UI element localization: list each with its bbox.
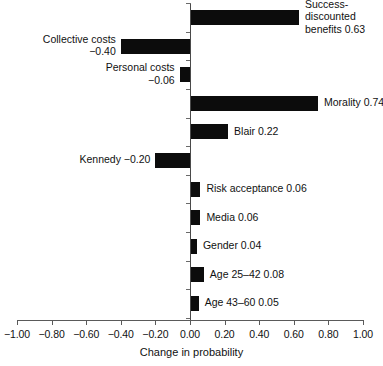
bar-risk-acceptance (190, 182, 200, 197)
x-tick-mark (363, 320, 364, 325)
bar-personal-costs (180, 67, 190, 82)
x-tick-mark (17, 320, 18, 325)
bar-blair (190, 124, 228, 139)
bar-label-age-25-42: Age 25–42 0.08 (210, 268, 284, 280)
x-tick-mark (121, 320, 122, 325)
x-tick-label: 0.00 (180, 328, 200, 340)
bar-media (190, 210, 200, 225)
bar-label-success-discounted-benefits: Success- discounted benefits 0.63 (305, 0, 365, 35)
x-tick-mark (190, 320, 191, 325)
x-tick-label: 0.80 (318, 328, 338, 340)
x-tick-mark (225, 320, 226, 325)
bar-success-discounted-benefits (190, 10, 299, 25)
x-tick-label: −0.60 (73, 328, 99, 340)
bar-label-risk-acceptance: Risk acceptance 0.06 (206, 182, 306, 194)
bar-age-25-42 (190, 267, 204, 282)
x-tick-label: 1.00 (353, 328, 373, 340)
x-tick-label: −0.20 (142, 328, 168, 340)
x-tick-label: −0.80 (39, 328, 65, 340)
x-tick-mark (328, 320, 329, 325)
x-tick-label: −0.40 (108, 328, 134, 340)
bar-age-43-60 (190, 296, 199, 311)
bar-label-media: Media 0.06 (206, 211, 258, 223)
bar-gender (190, 239, 197, 254)
x-tick-mark (259, 320, 260, 325)
x-tick-mark (86, 320, 87, 325)
bar-label-kennedy: Kennedy −0.20 (79, 153, 150, 165)
bar-label-age-43-60: Age 43–60 0.05 (205, 296, 279, 308)
x-tick-mark (52, 320, 53, 325)
bar-label-blair: Blair 0.22 (234, 125, 278, 137)
bar-collective-costs (121, 39, 190, 54)
x-tick-label: 0.20 (215, 328, 235, 340)
x-tick-label: −1.00 (4, 328, 30, 340)
bar-label-personal-costs: Personal costs −0.06 (106, 61, 175, 86)
x-tick-mark (155, 320, 156, 325)
bar-label-gender: Gender 0.04 (203, 239, 261, 251)
bar-label-morality: Morality 0.74 (324, 96, 383, 108)
bar-label-collective-costs: Collective costs −0.40 (43, 33, 116, 58)
bar-morality (190, 96, 318, 111)
plot-area: Success- discounted benefits 0.63Collect… (0, 0, 383, 366)
bar-kennedy (155, 153, 190, 168)
zero-axis-line (190, 4, 191, 320)
x-tick-mark (294, 320, 295, 325)
x-tick-label: 0.40 (249, 328, 269, 340)
x-tick-label: 0.60 (284, 328, 304, 340)
bar-chart: Success- discounted benefits 0.63Collect… (0, 0, 383, 366)
x-axis-title: Change in probability (0, 346, 383, 358)
